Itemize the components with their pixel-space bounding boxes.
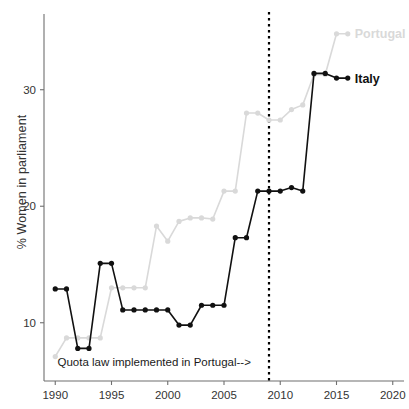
data-point (176, 322, 181, 327)
data-point (120, 285, 125, 290)
data-point (300, 102, 305, 107)
series-portugal (53, 31, 351, 359)
data-series-layer (53, 31, 351, 359)
data-point (131, 285, 136, 290)
data-point (109, 285, 114, 290)
data-point (188, 215, 193, 220)
y-tick-label: 10 (23, 317, 36, 329)
data-point (289, 185, 294, 190)
y-tick-label: 30 (23, 84, 36, 96)
data-point (334, 31, 339, 36)
chart-axes: 1020301990199520002005201020152020 (23, 14, 405, 401)
data-point (266, 117, 271, 122)
data-point (131, 307, 136, 312)
quota-law-note: Quota law implemented in Portugal--> (58, 356, 252, 368)
data-point (154, 307, 159, 312)
data-point (244, 110, 249, 115)
x-tick-label: 2015 (324, 389, 350, 401)
data-point (289, 107, 294, 112)
data-point (86, 346, 91, 351)
data-point (221, 188, 226, 193)
data-point (120, 307, 125, 312)
data-point (233, 188, 238, 193)
line-chart-plot: 1020301990199520002005201020152020 Quota… (0, 0, 409, 409)
legend-label-portugal: Portugal (355, 27, 406, 41)
data-point (323, 71, 328, 76)
data-point (64, 286, 69, 291)
data-point (255, 188, 260, 193)
data-point (143, 307, 148, 312)
data-point (210, 216, 215, 221)
data-point (278, 188, 283, 193)
data-point (221, 303, 226, 308)
x-tick-label: 1990 (42, 389, 68, 401)
series-line-portugal (55, 34, 348, 357)
x-tick-label: 2005 (211, 389, 237, 401)
data-point (233, 235, 238, 240)
chart-container: % Women in parliament 102030199019952000… (0, 0, 409, 409)
data-point (255, 110, 260, 115)
data-point (143, 285, 148, 290)
data-point (176, 219, 181, 224)
data-point (345, 31, 350, 36)
data-point (98, 261, 103, 266)
data-point (199, 303, 204, 308)
data-point (165, 307, 170, 312)
x-tick-label: 1995 (99, 389, 125, 401)
data-point (244, 235, 249, 240)
data-point (53, 286, 58, 291)
data-point (98, 335, 103, 340)
x-tick-label: 2010 (267, 389, 293, 401)
data-point (188, 322, 193, 327)
data-point (210, 303, 215, 308)
data-point (300, 188, 305, 193)
legend-label-italy: Italy (355, 72, 380, 86)
data-point (165, 239, 170, 244)
series-italy (53, 71, 351, 351)
data-point (311, 71, 316, 76)
data-point (199, 215, 204, 220)
data-point (278, 117, 283, 122)
x-tick-label: 2020 (380, 389, 406, 401)
data-point (345, 75, 350, 80)
data-point (109, 261, 114, 266)
data-point (75, 346, 80, 351)
data-point (64, 335, 69, 340)
chart-annotations: Quota law implemented in Portugal--> (58, 356, 252, 368)
x-tick-label: 2000 (155, 389, 181, 401)
data-point (334, 75, 339, 80)
data-point (266, 188, 271, 193)
chart-legend: ItalyPortugal (355, 27, 406, 85)
y-tick-label: 20 (23, 200, 36, 212)
data-point (154, 223, 159, 228)
